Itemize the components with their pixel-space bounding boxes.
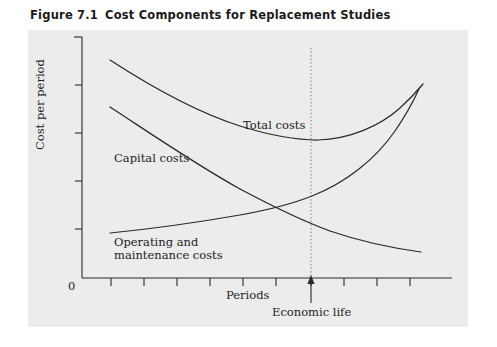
y-axis-label: Cost per period <box>33 59 47 150</box>
curve-label-om-line2: maintenance costs <box>114 249 223 262</box>
economic-life-arrow-icon <box>307 275 314 303</box>
curve-label-capital-costs: Capital costs <box>114 152 189 165</box>
curve-label-total-costs: Total costs <box>243 119 305 132</box>
curve-label-om-costs: Operating and maintenance costs <box>114 236 223 262</box>
axis-origin-label: 0 <box>68 279 75 293</box>
economic-life-label: Economic life <box>272 305 351 319</box>
figure-container: Figure 7.1 Cost Components for Replaceme… <box>0 0 497 347</box>
x-axis-label: Periods <box>226 288 269 302</box>
y-axis-ticks <box>75 85 82 229</box>
x-axis-ticks <box>111 278 410 286</box>
